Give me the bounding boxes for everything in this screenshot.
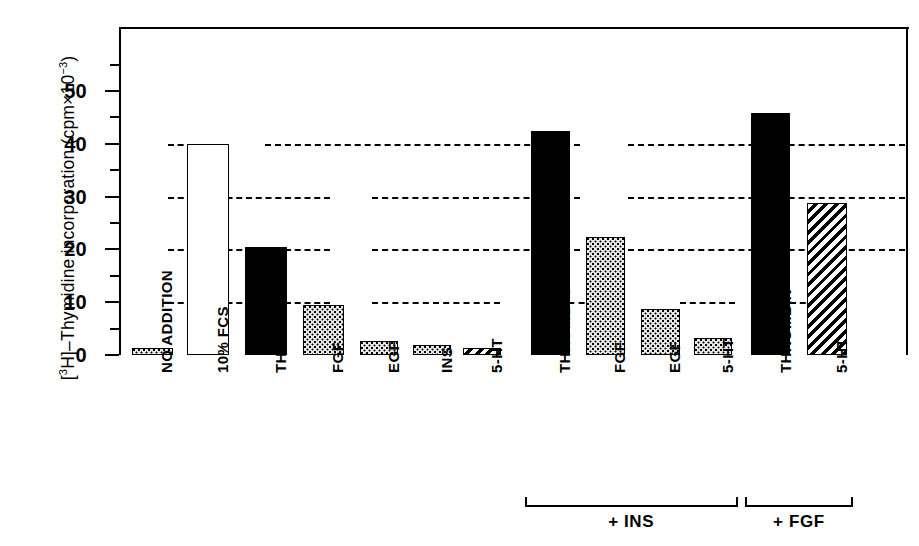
y-axis-title-text: [3H]–Thymidine incorporation (cpm×10−3): [58, 56, 78, 381]
x-label-10-5-ht: 5-HT: [719, 338, 736, 373]
y-tick-label-50: 50: [64, 80, 87, 103]
y-tick-minor-45: [110, 116, 119, 118]
y-tick-major-50: [105, 90, 119, 92]
y-tick-label-10: 10: [64, 291, 87, 314]
x-label-3-fgf: FGF: [329, 342, 346, 373]
y-tick-label-40: 40: [64, 132, 87, 155]
y-tick-minor-55: [110, 64, 119, 66]
group-bracket-1: [745, 497, 853, 507]
y-tick-major-20: [105, 248, 119, 250]
x-label-6-5-ht: 5-HT: [488, 338, 505, 373]
x-label-11-thrombin: THROMBIN: [777, 289, 794, 373]
y-tick-minor-25: [110, 222, 119, 224]
y-tick-major-40: [105, 143, 119, 145]
x-label-0-no-addition: NO ADDITION: [158, 270, 175, 373]
x-label-7-thrombin: THROMBIN: [556, 289, 573, 373]
group-bracket-label-fgf: + FGF: [745, 512, 853, 532]
y-tick-label-20: 20: [64, 238, 87, 261]
x-label-8-fgf: FGF: [611, 342, 628, 373]
x-label-12-5-ht: 5-HT: [833, 338, 850, 373]
bar-8-fgf: [586, 237, 626, 355]
y-tick-major-10: [105, 301, 119, 303]
x-label-4-egf: EGF: [385, 341, 402, 373]
group-bracket-label-ins: + INS: [525, 512, 738, 532]
y-tick-label-0: 0: [76, 344, 87, 367]
x-label-2-thrombin: THROMBIN: [272, 289, 289, 373]
group-bracket-0: [525, 497, 738, 507]
y-tick-major-30: [105, 196, 119, 198]
y-tick-major-0: [105, 354, 119, 356]
y-tick-minor-15: [110, 275, 119, 277]
y-tick-minor-35: [110, 169, 119, 171]
y-tick-minor-5: [110, 328, 119, 330]
x-label-5-ins: INS: [438, 347, 455, 373]
x-label-9-egf: EGF: [666, 341, 683, 373]
figure: [3H]–Thymidine incorporation (cpm×10−3) …: [0, 0, 919, 546]
bar-12-5-ht: [807, 203, 847, 355]
y-tick-label-30: 30: [64, 185, 87, 208]
x-label-1-10-fcs: 10% FCS: [214, 306, 231, 373]
